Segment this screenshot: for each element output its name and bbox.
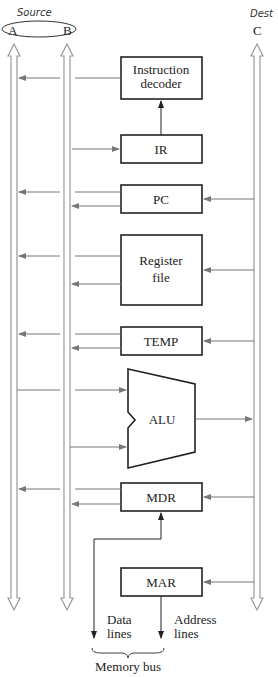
three-bus-datapath-diagram: Source Dest A B C Instruction decoder IR…: [0, 0, 278, 677]
address-lines-label-2: lines: [174, 626, 199, 641]
mdr-register-block: MDR: [121, 483, 202, 511]
memory-bus-label: Memory bus: [95, 659, 161, 674]
instruction-decoder-block: Instruction decoder: [121, 57, 202, 99]
bus-a: [8, 44, 20, 610]
register-file-block: Register file: [121, 235, 202, 305]
pc-label: PC: [153, 192, 169, 207]
dest-handwritten-label: Dest: [250, 8, 274, 19]
address-lines-label-1: Address: [174, 612, 217, 627]
instruction-decoder-label-1: Instruction: [133, 62, 190, 77]
mar-label: MAR: [146, 575, 176, 590]
bus-c: [251, 44, 263, 610]
memory-bus-brace: [92, 648, 164, 658]
ir-register-block: IR: [121, 135, 202, 163]
ir-label: IR: [155, 142, 168, 157]
data-lines-label-2: lines: [107, 626, 132, 641]
data-lines-label-1: Data: [107, 612, 132, 627]
alu-label: ALU: [149, 412, 176, 427]
bus-b: [61, 44, 73, 610]
bus-b-label: B: [63, 23, 72, 38]
register-file-label-1: Register: [139, 253, 183, 268]
mar-register-block: MAR: [121, 568, 202, 596]
mdr-label: MDR: [146, 490, 176, 505]
source-handwritten-label: Source: [17, 7, 52, 18]
bus-a-label: A: [8, 23, 18, 38]
instruction-decoder-label-2: decoder: [140, 76, 182, 91]
register-file-label-2: file: [152, 270, 170, 285]
temp-label: TEMP: [144, 334, 179, 349]
alu-block: ALU: [128, 369, 195, 468]
pc-register-block: PC: [121, 185, 202, 213]
temp-register-block: TEMP: [121, 327, 202, 355]
bus-c-label: C: [253, 23, 262, 38]
